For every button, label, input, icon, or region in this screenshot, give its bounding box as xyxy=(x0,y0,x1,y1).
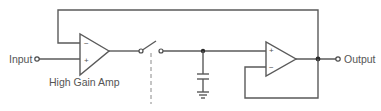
output-terminal xyxy=(336,57,340,61)
buffer-feedback-wire xyxy=(245,59,318,98)
switch-blade xyxy=(143,41,157,50)
amp1-plus-sign: + xyxy=(84,56,89,65)
amp2-minus-sign: − xyxy=(269,63,274,72)
amp1-label: High Gain Amp xyxy=(49,76,120,88)
high-gain-amp: − + xyxy=(80,34,109,75)
buffer-amp: + − xyxy=(266,42,296,76)
input-terminal xyxy=(35,57,39,61)
switch-right-contact xyxy=(159,49,163,53)
hold-capacitor xyxy=(197,51,209,92)
amp2-plus-sign: + xyxy=(269,46,274,55)
circuit-diagram: Input − + High Gain Amp + − Output xyxy=(0,0,381,111)
amp1-minus-sign: − xyxy=(84,39,89,48)
switch xyxy=(139,41,163,53)
output-label: Output xyxy=(344,53,376,65)
input-label: Input xyxy=(9,53,32,65)
ground-icon xyxy=(197,92,209,98)
